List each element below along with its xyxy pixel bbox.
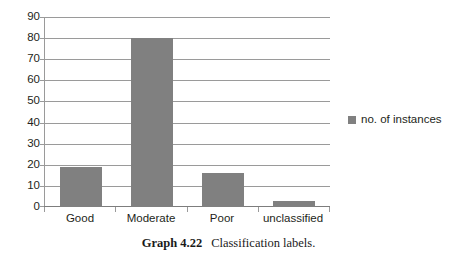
y-tick-label-50: 50 xyxy=(4,96,40,108)
y-tick-mark-50 xyxy=(40,101,44,102)
y-tick-mark-20 xyxy=(40,165,44,166)
y-tick-label-90: 90 xyxy=(4,11,40,23)
x-tick-label-poor: Poor xyxy=(210,212,234,225)
y-tick-mark-70 xyxy=(40,59,44,60)
bar-good[interactable] xyxy=(60,167,102,207)
bar-slot-unclassified xyxy=(259,17,330,207)
bar-slot-good xyxy=(45,17,116,207)
bar-slot-poor xyxy=(188,17,259,207)
legend: no. of instances xyxy=(348,114,442,126)
caption-text: Classification labels. xyxy=(211,236,315,250)
y-tick-mark-10 xyxy=(40,186,44,187)
x-tick-label-good: Good xyxy=(66,212,94,225)
y-tick-mark-40 xyxy=(40,123,44,124)
plot-area xyxy=(44,17,330,207)
y-tick-mark-30 xyxy=(40,144,44,145)
y-tick-label-10: 10 xyxy=(4,180,40,192)
bar-series-no-of-instances xyxy=(45,17,330,207)
legend-swatch-no-of-instances xyxy=(348,116,356,124)
y-tick-label-80: 80 xyxy=(4,32,40,44)
y-tick-mark-60 xyxy=(40,80,44,81)
figure: 90 80 70 60 50 40 30 20 10 0 xyxy=(0,0,457,262)
bar-moderate[interactable] xyxy=(131,38,173,207)
x-axis-tick-labels: Good Moderate Poor unclassified xyxy=(44,212,330,230)
bar-poor[interactable] xyxy=(202,173,244,207)
legend-label-no-of-instances: no. of instances xyxy=(361,114,442,126)
caption-number: Graph 4.22 xyxy=(142,236,202,250)
bar-unclassified[interactable] xyxy=(273,201,315,207)
y-tick-mark-80 xyxy=(40,38,44,39)
x-tick-label-moderate: Moderate xyxy=(127,212,176,225)
y-tick-label-60: 60 xyxy=(4,75,40,87)
y-tick-label-20: 20 xyxy=(4,159,40,171)
y-tick-label-30: 30 xyxy=(4,138,40,150)
y-axis-tick-labels: 90 80 70 60 50 40 30 20 10 0 xyxy=(0,17,40,207)
bar-slot-moderate xyxy=(116,17,187,207)
y-tick-label-40: 40 xyxy=(4,117,40,129)
y-tick-label-70: 70 xyxy=(4,53,40,65)
y-tick-label-0: 0 xyxy=(4,201,40,213)
y-tick-mark-90 xyxy=(40,17,44,18)
figure-caption: Graph 4.22Classification labels. xyxy=(0,236,457,251)
x-tick-label-unclassified: unclassified xyxy=(263,212,323,225)
